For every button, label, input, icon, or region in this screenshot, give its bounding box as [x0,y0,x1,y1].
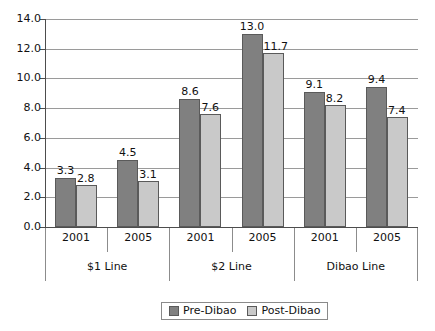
y-axis-tick-label: 6.0 [24,132,42,143]
bar-value-label: 3.1 [139,169,178,180]
x-axis-year-label: 2005 [232,232,294,244]
bar-pre-dibao-2005-5 [366,87,387,227]
x-axis-year-label: 2005 [107,232,169,244]
y-axis: 0.02.04.06.08.010.012.014.0 [0,0,41,331]
x-axis-major-separator [169,228,170,281]
bar-pre-dibao-2001-4 [304,92,325,227]
legend-label-post-dibao: Post-Dibao [261,305,320,316]
bar-post-dibao-2001-4 [325,105,346,227]
y-axis-tick-label: 14.0 [17,13,42,24]
bar-value-label: 2.8 [77,173,116,184]
x-axis-minor-separator [232,228,233,252]
x-axis-year-label: 2001 [45,232,107,244]
y-axis-tick-label: 4.0 [24,162,42,173]
bar-value-label: 8.2 [326,93,365,104]
legend-item-post-dibao: Post-Dibao [247,305,320,316]
bar-value-label: 13.0 [235,21,270,32]
bar-post-dibao-2001-0 [76,185,97,227]
bar-value-label: 8.6 [172,86,207,97]
bar-pre-dibao-2005-1 [117,160,138,227]
bar-pre-dibao-2001-0 [55,178,76,227]
x-axis-minor-separator [107,228,108,252]
x-axis-minor-separator [356,228,357,252]
bar-pre-dibao-2005-3 [242,34,263,227]
x-axis-year-label: 2001 [294,232,356,244]
x-axis-year-label: 2001 [169,232,231,244]
bar-pre-dibao-2001-2 [179,99,200,227]
legend-swatch-pre-dibao [169,306,179,316]
bar-value-label: 9.4 [359,74,394,85]
y-axis-tick-label: 2.0 [24,191,42,202]
y-axis-tick-label: 8.0 [24,102,42,113]
bar-post-dibao-2005-5 [387,117,408,227]
x-axis-group-label: Dibao Line [294,261,418,273]
bar-value-label: 7.6 [201,102,240,113]
x-axis-year-label: 2005 [356,232,418,244]
y-axis-tick-label: 10.0 [17,72,42,83]
bar-post-dibao-2001-2 [200,114,221,227]
bar-value-label: 4.5 [110,147,145,158]
x-axis-group-label: $1 Line [45,261,169,273]
bar-post-dibao-2005-1 [138,181,159,227]
x-axis-major-separator [45,228,46,281]
legend-swatch-post-dibao [247,306,257,316]
y-axis-tick-label: 0.0 [24,221,42,232]
chart-legend: Pre-Dibao Post-Dibao [161,302,328,320]
x-axis-major-separator [294,228,295,281]
bar-value-label: 11.7 [264,41,303,52]
bar-value-label: 9.1 [297,79,332,90]
category-axis: 200120052001200520012005$1 Line$2 LineDi… [45,228,418,290]
legend-item-pre-dibao: Pre-Dibao [169,305,236,316]
x-axis-group-label: $2 Line [169,261,293,273]
legend-label-pre-dibao: Pre-Dibao [183,305,236,316]
bar-post-dibao-2005-3 [263,53,284,227]
x-axis-major-separator [417,228,418,281]
bar-value-label: 7.4 [388,105,427,116]
bars-layer: 3.32.84.53.18.67.613.011.79.18.29.47.4 [45,19,418,227]
y-axis-tick-label: 12.0 [17,43,42,54]
bar-chart: 0.02.04.06.08.010.012.014.0 3.32.84.53.1… [0,0,435,331]
